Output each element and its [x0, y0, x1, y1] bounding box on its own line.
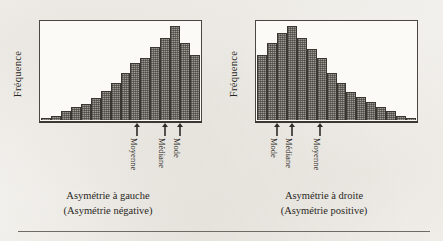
statistic-marker-label: Médiane: [155, 138, 166, 194]
histogram-bars-left: [41, 22, 200, 120]
statistic-marker-label: Moyenne: [310, 138, 321, 194]
caption-right: Asymétrie à droite (Asymétrie positive): [222, 188, 426, 218]
arrow-up-icon: [162, 123, 168, 136]
histogram-bar: [376, 107, 386, 120]
histogram-bar: [337, 83, 347, 120]
caption-left-line1: Asymétrie à gauche: [6, 188, 210, 203]
statistic-marker-label: Mode: [170, 138, 181, 194]
histogram-bar: [346, 92, 356, 120]
arrow-up-icon: [317, 123, 323, 136]
histogram-bar: [101, 91, 111, 120]
histogram-bars-right: [257, 22, 416, 120]
marker-group-left: MoyenneMédianeMode: [39, 123, 202, 185]
caption-left: Asymétrie à gauche (Asymétrie négative): [6, 188, 210, 218]
histogram-bar: [366, 102, 376, 120]
arrow-up-icon: [134, 123, 140, 136]
y-axis-label-right: Fréquence: [228, 26, 244, 122]
histogram-bar: [121, 73, 131, 120]
histogram-bar: [396, 116, 406, 120]
histogram-bar: [81, 104, 91, 120]
histogram-bar: [257, 55, 267, 120]
caption-right-line2: (Asymétrie positive): [222, 203, 426, 218]
histogram-bar: [91, 98, 101, 120]
figure-area: Fréquence MoyenneMédianeMode Asymétrie à…: [0, 0, 443, 241]
histogram-bar: [406, 118, 416, 120]
histogram-bar: [190, 55, 200, 120]
arrow-up-icon: [274, 123, 280, 136]
histogram-bar: [170, 26, 180, 120]
histogram-bar: [51, 116, 61, 120]
histogram-bar: [150, 47, 160, 120]
histogram-bar: [180, 43, 190, 120]
bottom-divider-rule: [18, 231, 430, 232]
caption-left-line2: (Asymétrie négative): [6, 203, 210, 218]
histogram-bar: [297, 38, 307, 120]
histogram-bar: [317, 58, 327, 120]
histogram-bar: [111, 83, 121, 120]
statistic-marker-label: Médiane: [282, 138, 293, 194]
histogram-bar: [277, 33, 287, 120]
panel-skew-left: Fréquence MoyenneMédianeMode Asymétrie à…: [6, 6, 210, 186]
panel-skew-right: Fréquence ModeMédianeMoyenne Asymétrie à…: [222, 6, 426, 186]
histogram-bar: [327, 73, 337, 120]
plot-frame-left: [39, 20, 202, 122]
histogram-bar: [160, 38, 170, 120]
histogram-bar: [41, 118, 51, 120]
histogram-bar: [61, 111, 71, 120]
statistic-marker-label: Moyenne: [127, 138, 138, 194]
histogram-bar: [307, 49, 317, 120]
statistic-marker-label: Mode: [267, 138, 278, 194]
histogram-bar: [287, 26, 297, 120]
histogram-bar: [140, 58, 150, 120]
histogram-bar: [71, 107, 81, 120]
arrow-up-icon: [177, 123, 183, 136]
histogram-bar: [267, 43, 277, 120]
histogram-bar: [356, 97, 366, 120]
plot-frame-right: [255, 20, 418, 122]
histogram-bar: [386, 111, 396, 120]
caption-right-line1: Asymétrie à droite: [222, 188, 426, 203]
marker-group-right: ModeMédianeMoyenne: [255, 123, 418, 185]
y-axis-label-left: Fréquence: [12, 26, 28, 122]
arrow-up-icon: [289, 123, 295, 136]
histogram-bar: [130, 63, 140, 120]
